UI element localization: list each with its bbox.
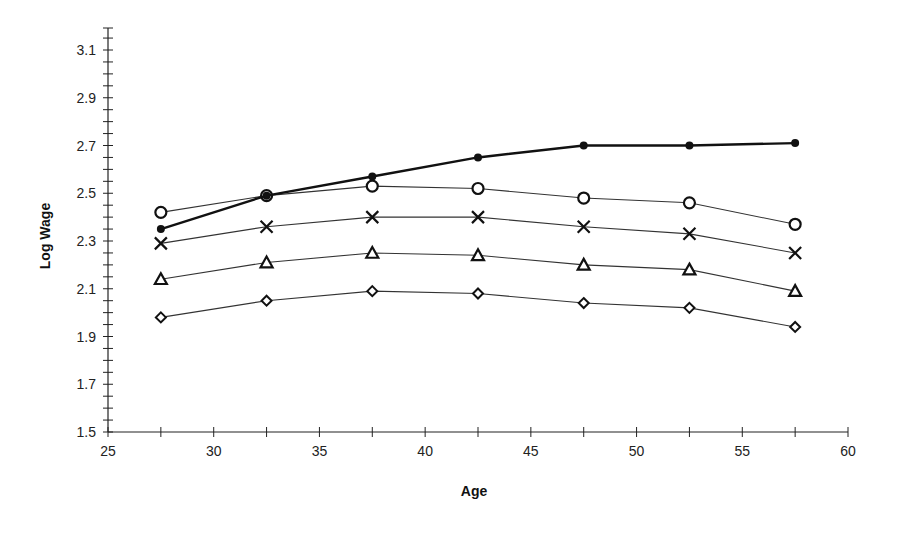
x-tick-label: 35 [312, 443, 328, 459]
y-axis-title: Log Wage [37, 203, 53, 270]
triangle-marker [578, 259, 590, 270]
x-tick-label: 50 [629, 443, 645, 459]
open-circle-marker [684, 197, 695, 208]
diamond-marker [473, 289, 483, 299]
x-tick-label: 40 [417, 443, 433, 459]
open-circle-marker [155, 207, 166, 218]
x-tick-label: 60 [840, 443, 856, 459]
y-tick-label: 1.5 [77, 424, 97, 440]
series-diamond [156, 286, 800, 332]
triangle-marker [261, 256, 273, 267]
diamond-marker [579, 298, 589, 308]
data-series [155, 139, 801, 332]
filled-circle-marker [474, 153, 482, 161]
diamond-marker [262, 296, 272, 306]
triangle-marker [366, 247, 378, 258]
filled-circle-marker [685, 142, 693, 150]
x-marker [155, 237, 167, 249]
x-axis-title: Age [461, 483, 488, 499]
axes [108, 28, 848, 432]
y-tick-label: 2.1 [77, 281, 97, 297]
x-axis-ticks: 2530354045505560 [100, 427, 856, 459]
diamond-marker [367, 286, 377, 296]
triangle-marker [472, 249, 484, 260]
open-circle-marker [790, 219, 801, 230]
filled-circle-marker [791, 139, 799, 147]
diamond-marker [684, 303, 694, 313]
x-tick-label: 55 [734, 443, 750, 459]
y-tick-label: 2.7 [77, 138, 97, 154]
y-tick-label: 1.9 [77, 329, 97, 345]
open-circle-marker [367, 181, 378, 192]
open-circle-marker [473, 183, 484, 194]
open-circle-marker [578, 193, 589, 204]
x-marker [789, 247, 801, 259]
triangle-marker [789, 285, 801, 296]
diamond-marker [790, 322, 800, 332]
filled-circle-marker [263, 192, 271, 200]
filled-circle-marker [368, 173, 376, 181]
triangle-marker [155, 273, 167, 284]
y-tick-label: 2.5 [77, 185, 97, 201]
y-tick-label: 3.1 [77, 42, 97, 58]
series-open-circle [155, 181, 800, 230]
x-tick-label: 30 [206, 443, 222, 459]
filled-circle-marker [580, 142, 588, 150]
triangle-marker [683, 264, 695, 275]
y-tick-label: 1.7 [77, 376, 97, 392]
x-tick-label: 45 [523, 443, 539, 459]
x-tick-label: 25 [100, 443, 116, 459]
diamond-marker [156, 312, 166, 322]
filled-circle-marker [157, 225, 165, 233]
y-tick-label: 2.3 [77, 233, 97, 249]
line-chart: 2530354045505560 1.51.71.92.12.32.52.72.… [0, 0, 900, 535]
y-tick-label: 2.9 [77, 90, 97, 106]
